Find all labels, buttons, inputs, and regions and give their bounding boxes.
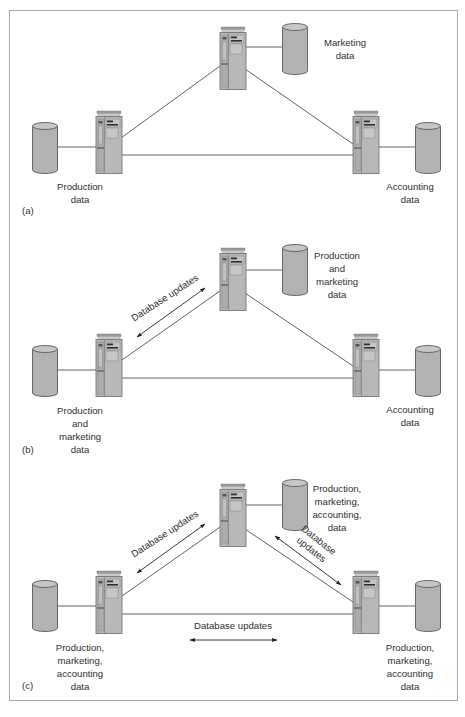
database-cylinder-icon — [416, 123, 441, 174]
database-cylinder-icon — [33, 123, 58, 174]
database-cylinder-icon — [416, 346, 441, 397]
server-tower-icon — [96, 334, 122, 397]
server-tower-icon — [353, 334, 379, 397]
node-label-accounting: Accounting data — [370, 180, 450, 206]
panel-c — [33, 480, 441, 641]
server-tower-icon — [220, 27, 246, 90]
node-label-all-data: Production, marketing, accounting data — [370, 641, 450, 693]
network-link — [122, 291, 220, 360]
node-label-production-marketing: Production and marketing data — [40, 404, 120, 456]
network-link — [245, 293, 353, 366]
database-cylinder-icon — [283, 24, 308, 75]
server-tower-icon — [96, 111, 122, 174]
node-label-accounting: Accounting data — [370, 403, 450, 429]
node-label-production-marketing: Production and marketing data — [297, 249, 377, 301]
server-tower-icon — [220, 484, 246, 547]
server-tower-icon — [220, 248, 246, 311]
replication-label: Database updates — [183, 619, 283, 632]
panel-letter-a: (a) — [22, 205, 34, 216]
panel-letter-b: (b) — [22, 444, 34, 455]
network-link — [121, 66, 220, 138]
distributed-database-diagram — [0, 0, 465, 717]
node-label-production: Production data — [40, 180, 120, 206]
node-label-all-data: Production, marketing, accounting data — [40, 641, 120, 693]
network-link — [122, 527, 220, 596]
server-tower-icon — [353, 111, 379, 174]
database-cylinder-icon — [33, 581, 58, 632]
database-cylinder-icon — [33, 346, 58, 397]
network-link — [245, 69, 353, 144]
server-tower-icon — [353, 571, 379, 634]
node-label-marketing: Marketing data — [305, 36, 385, 62]
panel-b — [33, 245, 441, 397]
server-tower-icon — [96, 571, 122, 634]
database-cylinder-icon — [416, 581, 441, 632]
panel-letter-c: (c) — [22, 680, 33, 691]
